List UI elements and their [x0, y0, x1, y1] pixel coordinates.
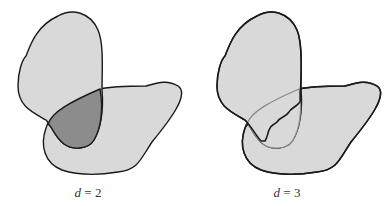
left-caption: d = 2: [48, 185, 128, 201]
right-caption-value: 3: [294, 185, 301, 200]
diagram-canvas: [0, 0, 391, 206]
left-panel: [18, 12, 182, 174]
right-caption: d = 3: [247, 185, 327, 201]
left-caption-equals: =: [81, 185, 95, 200]
right-panel: [217, 12, 381, 174]
left-caption-value: 2: [95, 185, 102, 200]
right-caption-equals: =: [280, 185, 294, 200]
